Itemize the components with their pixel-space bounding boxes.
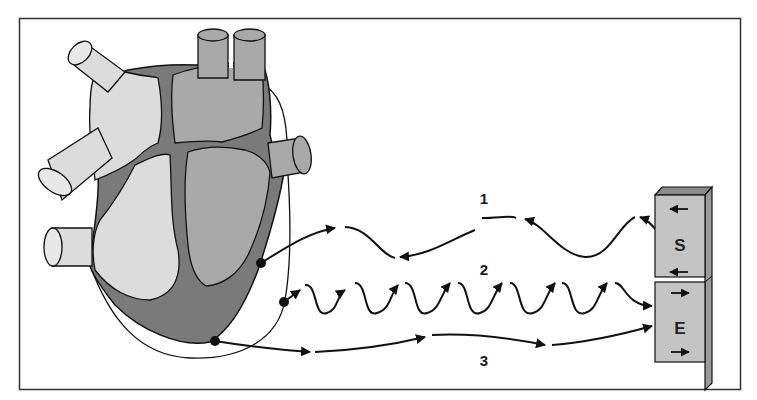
device-label-s: S: [674, 236, 685, 255]
path-label-2: 2: [480, 261, 488, 278]
ivc-opening: [44, 228, 62, 266]
aorta-right: [234, 35, 265, 80]
path-label-3: 3: [480, 352, 488, 369]
device-top-face: [655, 187, 712, 195]
signal-path-1: [261, 217, 656, 263]
aorta-left-opening: [198, 29, 228, 41]
device-side-face: [705, 187, 712, 390]
device-label-e: E: [674, 319, 685, 338]
heart: [34, 29, 314, 343]
device: S E: [655, 187, 712, 390]
signal-path-2: [284, 283, 652, 313]
heart-device-diagram: 1 2 3 S E: [0, 0, 757, 400]
signal-path-3: [215, 326, 652, 352]
path-label-1: 1: [480, 190, 488, 207]
aorta-right-opening: [234, 29, 265, 41]
